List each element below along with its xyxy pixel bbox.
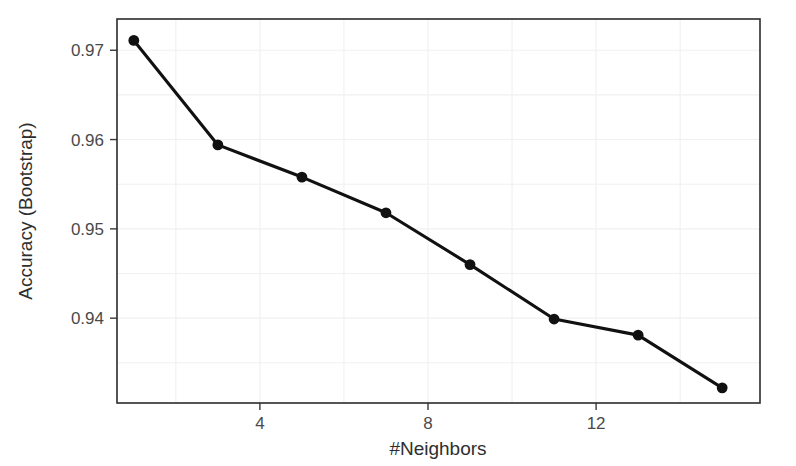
y-axis-tick-label: 0.97 [71,41,104,60]
data-point [633,330,644,341]
data-point [212,140,223,151]
data-point [297,172,308,183]
y-axis-title: Accuracy (Bootstrap) [15,122,36,299]
data-point [549,314,560,325]
data-point [717,382,728,393]
x-axis-tick-label: 12 [587,414,606,433]
y-axis-tick-label: 0.95 [71,220,104,239]
chart-figure: 0.940.950.960.97 4812 #Neighbors Accurac… [0,0,796,466]
data-point [381,207,392,218]
x-axis-title: #Neighbors [389,438,486,459]
x-axis-tick-label: 4 [255,414,264,433]
line-chart: 0.940.950.960.97 4812 #Neighbors Accurac… [0,0,796,466]
data-point [465,259,476,270]
y-axis-tick-label: 0.96 [71,131,104,150]
plot-panel-background [117,19,760,403]
x-axis-tick-label: 8 [423,414,432,433]
data-point [128,35,139,46]
y-axis-tick-label: 0.94 [71,309,104,328]
